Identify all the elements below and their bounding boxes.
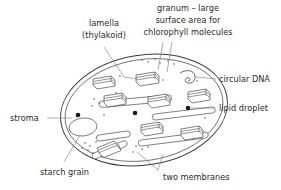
label-lamella-line1: lamella	[89, 18, 119, 28]
lipid-droplet-3	[186, 106, 191, 111]
diagram-canvas: lamella (thylakoid) granum – large surfa…	[0, 0, 281, 190]
label-circular-dna: circular DNA	[219, 74, 270, 84]
label-two-membranes: two membranes	[163, 172, 230, 182]
granum-3	[104, 93, 126, 107]
lipid-droplet-2	[133, 111, 138, 116]
label-lipid-droplet: lipid droplet	[219, 103, 269, 113]
granum-7	[181, 126, 203, 140]
label-lamella-line2: (thylakoid)	[82, 30, 126, 40]
lipid-droplet-1	[76, 113, 81, 118]
chloroplast-diagram: lamella (thylakoid) granum – large surfa…	[0, 0, 281, 190]
label-granum-line2: surface area for	[156, 15, 222, 25]
label-stroma: stroma	[10, 113, 39, 123]
granum-5	[188, 89, 210, 103]
label-starch-grain: starch grain	[40, 167, 89, 177]
label-granum-line3: chlorophyll molecules	[143, 27, 232, 37]
granum-6	[141, 122, 163, 136]
label-granum-line1: granum – large	[157, 3, 219, 13]
granum-4	[148, 94, 170, 108]
